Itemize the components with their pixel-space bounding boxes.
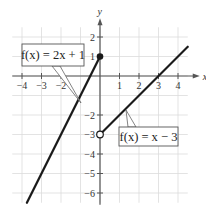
closed-endpoint-dot bbox=[97, 53, 104, 60]
series-group bbox=[27, 47, 188, 203]
y-tick-label: −5 bbox=[84, 168, 95, 179]
label-leader-2 bbox=[126, 110, 136, 127]
y-tick-label: 2 bbox=[90, 32, 95, 43]
y-tick-label: −4 bbox=[84, 149, 95, 160]
piecewise-function-graph: xy −4−3−2123421−2−3−4−5−6 f(x) = 2x + 1f… bbox=[0, 0, 206, 216]
x-tick-label: 2 bbox=[137, 80, 142, 91]
y-tick-label: −6 bbox=[84, 188, 95, 199]
y-tick-label: −3 bbox=[84, 129, 95, 140]
y-axis-arrow-icon bbox=[98, 18, 103, 25]
x-tick-label: −3 bbox=[36, 80, 47, 91]
function-label-text-1: f(x) = 2x + 1 bbox=[21, 48, 85, 62]
x-axis-label: x bbox=[202, 71, 206, 82]
x-tick-label: 3 bbox=[156, 80, 161, 91]
y-tick-label: 1 bbox=[90, 51, 95, 62]
x-tick-label: 1 bbox=[117, 80, 122, 91]
x-axis-arrow-icon bbox=[193, 74, 200, 79]
x-tick-label: 4 bbox=[176, 80, 181, 91]
x-tick-label: −4 bbox=[17, 80, 28, 91]
open-endpoint-dot bbox=[97, 131, 104, 138]
y-axis-label: y bbox=[97, 6, 103, 17]
y-tick-label: −2 bbox=[84, 110, 95, 121]
function-label-text-2: f(x) = x − 3 bbox=[120, 130, 178, 144]
